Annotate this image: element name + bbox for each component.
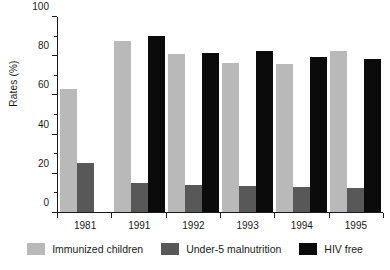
bar-1991-series2 xyxy=(148,36,165,212)
bar-group: 1995 xyxy=(329,17,383,212)
x-axis-tick xyxy=(274,213,275,218)
bar-group: 1993 xyxy=(221,17,275,212)
y-axis-tick xyxy=(52,55,57,56)
plot-area: 020406080100 198119911992199319941995 xyxy=(57,17,383,213)
bar-group: 1991 xyxy=(112,17,166,212)
legend-swatch-icon xyxy=(161,243,179,255)
bar-group: 1994 xyxy=(275,17,329,212)
bar-1994-series0 xyxy=(276,64,293,212)
bar-1993-series1 xyxy=(239,186,256,212)
legend-label: Under-5 malnutrition xyxy=(186,243,281,255)
legend-item: Immunized children xyxy=(27,243,143,255)
bar-group: 1992 xyxy=(166,17,220,212)
y-axis-tick-label: 60 xyxy=(38,79,49,90)
bar-1992-series1 xyxy=(185,185,202,212)
y-axis-title: Rates (%) xyxy=(8,39,19,129)
bar-1994-series2 xyxy=(310,57,327,212)
y-axis-tick-label: 40 xyxy=(38,118,49,129)
bar-1993-series0 xyxy=(222,63,239,212)
x-axis-tick-label: 1994 xyxy=(275,220,329,231)
x-axis-tick xyxy=(220,213,221,218)
y-axis-tick xyxy=(52,134,57,135)
chart-legend: Immunized childrenUnder-5 malnutritionHI… xyxy=(0,243,390,255)
bar-1992-series0 xyxy=(168,54,185,212)
x-axis-tick-label: 1992 xyxy=(166,220,220,231)
x-axis-tick xyxy=(329,213,330,218)
y-axis-tick-label: 100 xyxy=(32,1,49,12)
legend-label: HIV free xyxy=(324,243,363,255)
x-axis-tick-label: 1993 xyxy=(221,220,275,231)
bar-group: 1981 xyxy=(58,17,112,212)
x-axis-tick xyxy=(166,213,167,218)
legend-item: Under-5 malnutrition xyxy=(161,243,281,255)
x-axis-tick xyxy=(111,213,112,218)
bar-1995-series2 xyxy=(364,59,381,212)
legend-item: HIV free xyxy=(299,243,363,255)
y-axis-minor-tick xyxy=(54,153,57,154)
legend-swatch-icon xyxy=(299,243,317,255)
bar-1995-series1 xyxy=(347,188,364,213)
bar-1981-series0 xyxy=(60,89,77,212)
x-axis-tick xyxy=(57,213,58,218)
bar-1991-series0 xyxy=(114,41,131,212)
legend-swatch-icon xyxy=(27,243,45,255)
x-axis-tick-label: 1991 xyxy=(112,220,166,231)
bar-1981-series1 xyxy=(77,163,94,212)
legend-label: Immunized children xyxy=(52,243,143,255)
x-axis-tick xyxy=(383,213,384,218)
bar-1994-series1 xyxy=(293,187,310,212)
y-axis-tick xyxy=(52,94,57,95)
y-axis-tick xyxy=(52,173,57,174)
x-axis-tick-label: 1981 xyxy=(58,220,112,231)
y-axis-minor-tick xyxy=(54,75,57,76)
x-axis-tick-label: 1995 xyxy=(329,220,383,231)
y-axis-tick-label: 20 xyxy=(38,157,49,168)
bar-1993-series2 xyxy=(256,51,273,212)
y-axis-tick-label: 80 xyxy=(38,40,49,51)
y-axis-minor-tick xyxy=(54,114,57,115)
bar-1995-series0 xyxy=(330,51,347,212)
y-axis-tick-label: 0 xyxy=(43,197,49,208)
bar-1992-series2 xyxy=(202,53,219,212)
y-axis-minor-tick xyxy=(54,36,57,37)
y-axis-tick xyxy=(52,16,57,17)
bar-chart: Rates (%) 020406080100 19811991199219931… xyxy=(0,0,390,270)
bar-1991-series1 xyxy=(131,183,148,212)
bar-groups: 198119911992199319941995 xyxy=(58,17,383,212)
y-axis-minor-tick xyxy=(54,192,57,193)
